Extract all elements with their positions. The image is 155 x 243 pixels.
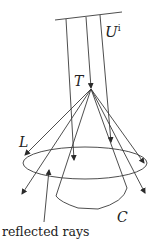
incident-wavefront-line	[55, 12, 122, 20]
incident-ray-center	[86, 17, 91, 88]
ring-L-ellipse	[23, 147, 147, 179]
incident-field-label: Ui	[105, 23, 121, 41]
ray-apex-to-ring-right	[91, 89, 144, 163]
cone-base-curve	[56, 188, 127, 209]
incident-ray-left	[66, 19, 74, 160]
reflected-rays-caption: reflected rays	[2, 224, 89, 239]
cone-side-left	[56, 89, 91, 196]
cone-side-right	[91, 89, 127, 188]
reflected-rays-pointer	[44, 170, 49, 222]
reflection-cone-diagram: Ui T L C reflected rays	[0, 0, 155, 243]
cone-label-C: C	[117, 209, 128, 225]
reflected-ray-right	[91, 89, 145, 193]
ring-label-L: L	[18, 134, 28, 150]
ray-apex-to-L	[25, 89, 91, 155]
apex-label-T: T	[74, 73, 85, 89]
reflected-ray-left	[22, 89, 91, 194]
